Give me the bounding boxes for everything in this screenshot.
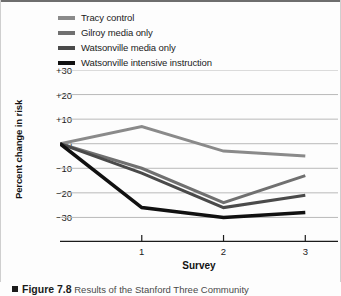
x-tick-label: 2	[221, 246, 226, 257]
legend-item-label: Gilroy media only	[81, 27, 153, 38]
x-tick-label: 3	[303, 246, 308, 257]
square-bullet-icon	[12, 286, 18, 292]
x-axis-title: Survey	[60, 260, 338, 271]
series-line	[60, 127, 305, 156]
chart-legend: Tracy control Gilroy media only Watsonvi…	[58, 11, 328, 71]
x-axis-ticks: 123	[60, 246, 338, 260]
x-tick-label: 1	[139, 246, 144, 257]
legend-swatch-icon	[58, 31, 75, 35]
figure-container: Tracy control Gilroy media only Watsonvi…	[0, 0, 341, 296]
legend-item: Tracy control	[58, 11, 328, 24]
legend-item: Watsonville intensive instruction	[58, 56, 328, 69]
series-lines	[60, 127, 305, 218]
plot-area: Percent change in risk +30+20+100−10−20−…	[0, 70, 341, 265]
figure-caption: Figure 7.8 Results of the Stanford Three…	[0, 283, 341, 296]
line-chart-svg	[60, 70, 338, 242]
legend-swatch-icon	[58, 46, 75, 50]
figure-number: Figure 7.8	[22, 283, 72, 295]
legend-item-label: Tracy control	[81, 12, 134, 23]
legend-swatch-icon	[58, 16, 75, 20]
caption-text: Results of the Stanford Three Community	[74, 284, 249, 295]
legend-item-label: Watsonville media only	[81, 42, 176, 53]
legend-item: Gilroy media only	[58, 26, 328, 39]
legend-item: Watsonville media only	[58, 41, 328, 54]
frame-top-border	[0, 0, 341, 2]
caption-body: Figure 7.8 Results of the Stanford Three…	[22, 283, 249, 295]
axis-lines	[60, 235, 338, 242]
legend-item-label: Watsonville intensive instruction	[81, 57, 212, 68]
